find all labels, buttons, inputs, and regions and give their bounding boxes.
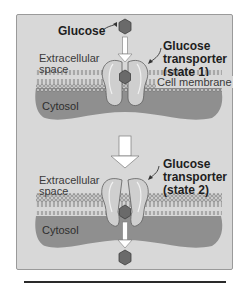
glucose-molecule-icon	[119, 250, 131, 265]
divider-line	[24, 281, 226, 283]
transition-arrow-icon	[111, 136, 139, 168]
pointer-transporter-icon	[150, 166, 159, 178]
cytosol-label: Cytosol	[42, 100, 79, 112]
glucose-molecule-icon	[120, 205, 131, 219]
extracellular-label-line2: space	[39, 185, 68, 197]
pointer-transporter-icon	[150, 48, 161, 62]
cell-membrane-label: Cell membrane	[156, 76, 233, 88]
glucose-label: Glucose	[58, 25, 105, 38]
extracellular-label-line2: space	[39, 63, 68, 75]
glucose-molecule-icon	[120, 70, 131, 84]
arrow-down-icon	[118, 37, 132, 62]
cytosol-label: Cytosol	[42, 224, 79, 236]
glucose-molecule-icon	[119, 19, 131, 34]
transporter-label-line3: (state 2)	[163, 184, 209, 197]
